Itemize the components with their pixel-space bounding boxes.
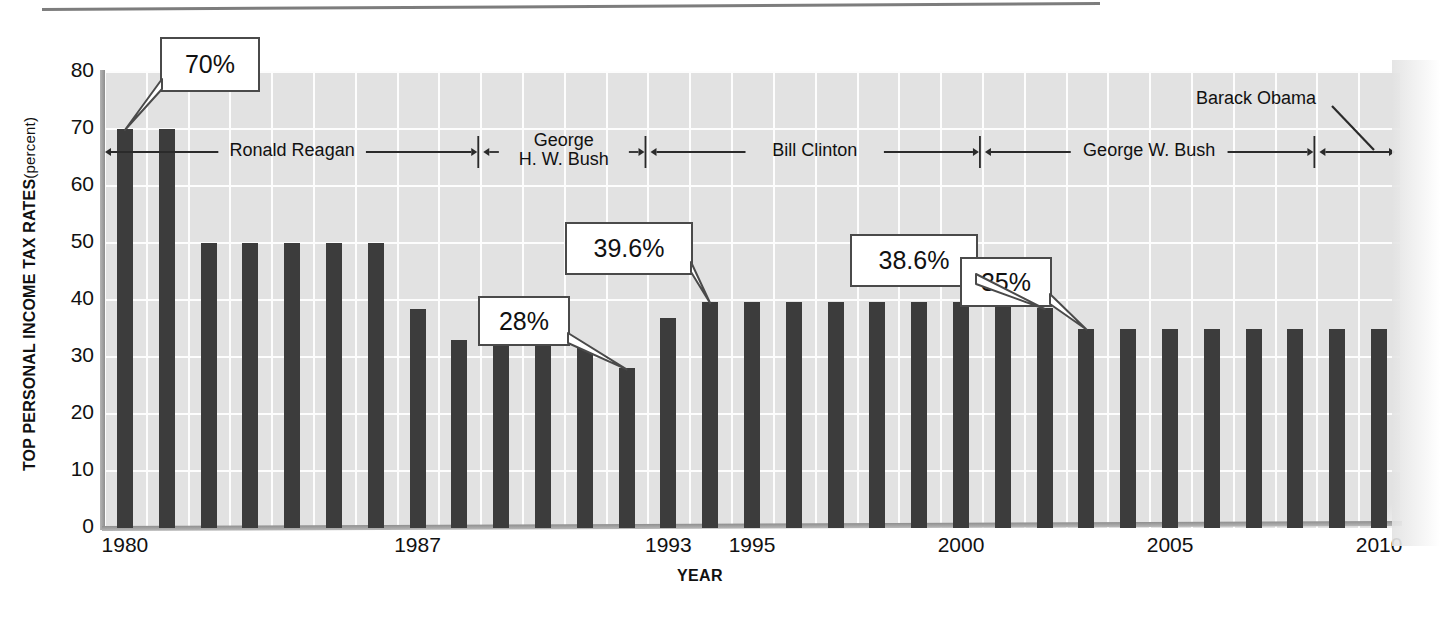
gridline-horizontal bbox=[104, 71, 1400, 73]
y-axis-title-text: TOP PERSONAL INCOME TAX RATES bbox=[21, 179, 38, 471]
y-axis-tick-label: 70 bbox=[71, 115, 94, 139]
bar bbox=[619, 368, 635, 528]
gridline-vertical bbox=[1066, 72, 1068, 528]
y-axis-tick-label: 50 bbox=[71, 229, 94, 253]
bar bbox=[786, 302, 802, 528]
y-axis-ticks: 01020304050607080 bbox=[0, 0, 94, 617]
y-axis-title: TOP PERSONAL INCOME TAX RATES(percent) bbox=[21, 59, 39, 529]
bar bbox=[242, 243, 258, 528]
bar bbox=[660, 318, 676, 528]
gridline-vertical bbox=[188, 72, 190, 528]
bar bbox=[201, 243, 217, 528]
bar bbox=[1037, 308, 1053, 528]
bar bbox=[577, 348, 593, 528]
callout-28: 28% bbox=[478, 296, 570, 346]
right-edge-fade bbox=[1392, 60, 1440, 546]
x-axis-tick-label: 1995 bbox=[729, 533, 776, 557]
y-axis-title-unit: (percent) bbox=[21, 117, 38, 179]
x-axis-tick-label: 1980 bbox=[102, 533, 149, 557]
y-axis-tick-label: 30 bbox=[71, 343, 94, 367]
gridline-vertical bbox=[1275, 72, 1277, 528]
bar bbox=[410, 309, 426, 528]
callout-396: 39.6% bbox=[565, 222, 693, 275]
gridline-vertical bbox=[731, 72, 733, 528]
bar bbox=[869, 302, 885, 528]
gridline-vertical bbox=[438, 72, 440, 528]
president-label-bill-clinton: Bill Clinton bbox=[768, 141, 861, 160]
bar bbox=[702, 302, 718, 528]
president-label-george-w-bush: George W. Bush bbox=[1079, 141, 1219, 160]
y-axis-line bbox=[100, 70, 105, 530]
y-axis-tick-label: 40 bbox=[71, 286, 94, 310]
bar bbox=[159, 129, 175, 528]
bar bbox=[1371, 329, 1387, 529]
president-label-ronald-reagan: Ronald Reagan bbox=[226, 141, 359, 160]
x-axis-tick-label: 1993 bbox=[645, 533, 692, 557]
x-axis-tick-label: 1987 bbox=[394, 533, 441, 557]
bar bbox=[1246, 329, 1262, 529]
gridline-horizontal bbox=[104, 128, 1400, 130]
bar bbox=[368, 243, 384, 528]
callout-35: 35% bbox=[960, 257, 1052, 307]
president-label-line2: H. W. Bush bbox=[519, 150, 609, 169]
gridline-vertical bbox=[397, 72, 399, 528]
bar bbox=[284, 243, 300, 528]
president-label-george-hw-bush: GeorgeH. W. Bush bbox=[515, 131, 613, 169]
y-axis-tick-label: 20 bbox=[71, 400, 94, 424]
bar bbox=[1078, 329, 1094, 529]
gridline-vertical bbox=[1358, 72, 1360, 528]
president-label-barack-obama: Barack Obama bbox=[1196, 88, 1316, 109]
gridline-vertical bbox=[940, 72, 942, 528]
bar bbox=[117, 129, 133, 528]
callout-70: 70% bbox=[160, 37, 260, 92]
y-axis-tick-label: 0 bbox=[82, 514, 94, 538]
x-axis-tick-label: 2000 bbox=[938, 533, 985, 557]
bar bbox=[1162, 329, 1178, 529]
top-divider-rule bbox=[42, 2, 1100, 11]
gridline-vertical bbox=[647, 72, 649, 528]
callout-386: 38.6% bbox=[850, 234, 978, 287]
bar bbox=[953, 302, 969, 528]
bar bbox=[451, 340, 467, 528]
bar bbox=[1120, 329, 1136, 529]
bar bbox=[1204, 329, 1220, 529]
gridline-horizontal bbox=[104, 185, 1400, 187]
bar bbox=[1329, 329, 1345, 529]
bar bbox=[828, 302, 844, 528]
bar bbox=[493, 340, 509, 528]
bar bbox=[326, 243, 342, 528]
x-axis-title: YEAR bbox=[677, 567, 723, 585]
bar bbox=[744, 302, 760, 528]
bar bbox=[911, 302, 927, 528]
gridline-vertical bbox=[898, 72, 900, 528]
gridline-vertical bbox=[146, 72, 148, 528]
president-label-line1: George bbox=[519, 131, 609, 150]
y-axis-tick-label: 10 bbox=[71, 457, 94, 481]
bar bbox=[995, 305, 1011, 528]
gridline-vertical bbox=[1233, 72, 1235, 528]
y-axis-tick-label: 80 bbox=[71, 58, 94, 82]
bar bbox=[535, 340, 551, 528]
gridline-vertical bbox=[689, 72, 691, 528]
x-axis-tick-label: 2005 bbox=[1147, 533, 1194, 557]
gridline-vertical bbox=[1316, 72, 1318, 528]
bar bbox=[1287, 329, 1303, 529]
y-axis-tick-label: 60 bbox=[71, 172, 94, 196]
